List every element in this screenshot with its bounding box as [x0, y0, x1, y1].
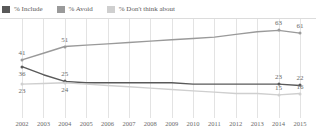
data-point-label: 16 — [297, 84, 304, 91]
data-point-marker — [63, 81, 66, 84]
x-axis-tick-label: 2013 — [251, 120, 264, 128]
data-point-marker — [299, 92, 302, 95]
x-axis-tick-label: 2002 — [16, 120, 29, 128]
legend-item-label: % Include — [14, 6, 43, 13]
data-point-marker — [21, 65, 24, 68]
x-axis-tick-label: 2005 — [80, 120, 93, 128]
data-point-marker — [21, 83, 24, 86]
data-point-label: 63 — [275, 20, 282, 27]
data-point-label: 25 — [61, 71, 68, 78]
x-axis-tick-label: 2007 — [122, 120, 135, 128]
x-axis-tick-label: 2009 — [165, 120, 178, 128]
x-axis-tick-label: 2003 — [37, 120, 50, 128]
data-point-label: 22 — [297, 75, 304, 82]
data-point-label: 51 — [61, 37, 68, 44]
square-swatch — [57, 6, 65, 13]
data-point-marker — [63, 45, 66, 48]
data-point-label: 61 — [297, 23, 304, 30]
square-swatch — [2, 6, 10, 13]
data-point-label: 23 — [275, 74, 282, 81]
data-point-label: 36 — [19, 71, 26, 78]
data-point-marker — [277, 93, 280, 96]
legend-item[interactable]: % Avoid — [57, 6, 93, 13]
square-swatch — [107, 6, 115, 13]
data-point-label: 23 — [19, 88, 26, 95]
x-axis: 2002200320042005200620072008200920102011… — [0, 120, 316, 132]
x-axis-tick-label: 2011 — [208, 120, 221, 128]
legend-item[interactable]: % Don't think about — [107, 6, 175, 13]
plot-area: 415163613625232223241516 — [0, 18, 316, 118]
x-axis-tick-label: 2015 — [294, 120, 307, 128]
x-axis-tick-label: 2004 — [58, 120, 71, 128]
data-point-marker — [21, 58, 24, 61]
data-point-label: 15 — [275, 85, 282, 92]
x-axis-tick-label: 2012 — [229, 120, 242, 128]
chart-legend: % Include% Avoid% Don't think about — [2, 2, 189, 16]
line-chart: % Include% Avoid% Don't think about 4151… — [0, 0, 316, 134]
x-axis-tick-label: 2006 — [101, 120, 114, 128]
x-axis-tick-label: 2008 — [144, 120, 157, 128]
data-point-label: 24 — [61, 87, 68, 94]
legend-item-label: % Don't think about — [119, 6, 175, 13]
data-point-marker — [277, 29, 280, 32]
x-axis-tick-label: 2014 — [272, 120, 285, 128]
legend-item[interactable]: % Include — [2, 6, 43, 13]
data-point-label: 41 — [19, 50, 26, 57]
x-axis-tick-label: 2010 — [187, 120, 200, 128]
series-lines — [0, 18, 316, 118]
data-point-marker — [299, 32, 302, 35]
legend-item-label: % Avoid — [69, 6, 93, 13]
